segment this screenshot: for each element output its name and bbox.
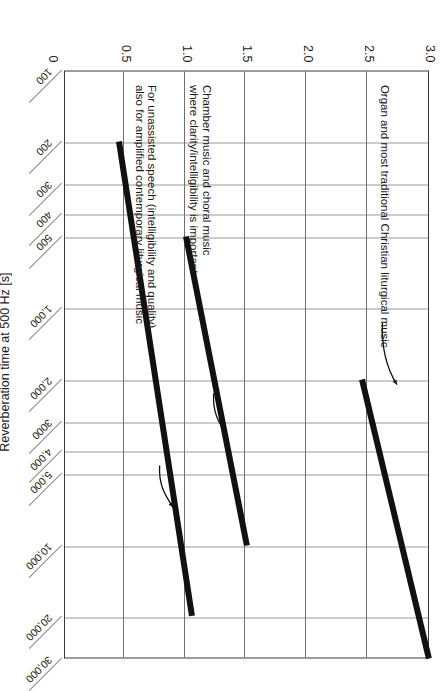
- gridline-vertical: [65, 308, 428, 309]
- y-axis-tick-1.5: 1.5: [241, 32, 255, 62]
- x-axis-tick-label: 300: [34, 179, 55, 200]
- annotation-chamber: Chamber music and choral music where cla…: [187, 84, 213, 273]
- y-axis-tick-0: 0: [46, 40, 60, 62]
- y-axis-tick-1.0: 1.0: [180, 32, 194, 62]
- x-axis-tick-label: 400: [34, 209, 55, 230]
- gridline-vertical: [65, 451, 428, 452]
- y-axis-tick-3.0: 3.0: [423, 32, 437, 62]
- x-axis-tick-label: 500: [34, 232, 55, 253]
- gridline-vertical: [65, 214, 428, 215]
- gridline-vertical: [65, 474, 428, 475]
- gridline-vertical: [65, 546, 428, 547]
- x-axis-tick-label: 100: [34, 66, 55, 87]
- x-axis-tick-label: 200: [34, 137, 55, 158]
- gridline-horizontal: [245, 71, 246, 657]
- gridline-horizontal: [366, 71, 367, 657]
- y-axis-title: Reverberation time at 500 Hz [s]: [0, 272, 12, 451]
- annotation-speech: For unassisted speech (intelligibility a…: [133, 84, 159, 328]
- annotation-organ: Organ and most traditional Christian lit…: [378, 84, 391, 347]
- y-axis-tick-2.0: 2.0: [301, 32, 315, 62]
- gridline-vertical: [65, 617, 428, 618]
- gridline-horizontal: [305, 71, 306, 657]
- gridline-vertical: [65, 380, 428, 381]
- y-axis-tick-0.5: 0.5: [119, 32, 133, 62]
- x-axis-tick-label: 3000: [30, 416, 55, 441]
- gridline-vertical: [65, 184, 428, 185]
- gridline-vertical: [65, 237, 428, 238]
- y-axis-tick-2.5: 2.5: [362, 32, 376, 62]
